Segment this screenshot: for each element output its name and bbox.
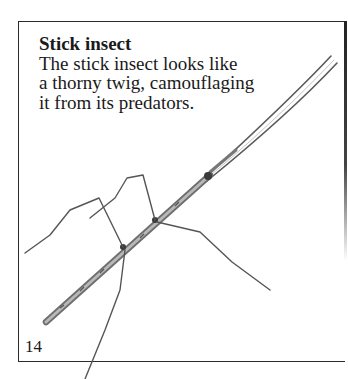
insect-body — [46, 172, 212, 322]
insect-legs — [25, 175, 270, 379]
page-number: 14 — [25, 337, 42, 357]
caption-block: Stick insect The stick insect looks like… — [39, 34, 299, 112]
caption-title: Stick insect — [39, 34, 299, 54]
caption-line-2: a thorny twig, camouflaging — [39, 73, 299, 93]
caption-line-1: The stick insect looks like — [39, 54, 299, 74]
caption-line-3: it from its predators. — [39, 93, 299, 113]
